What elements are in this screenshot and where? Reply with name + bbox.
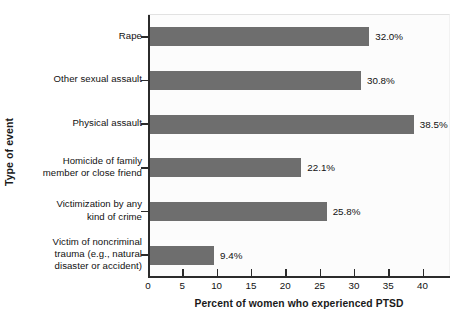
category-label: Victimization by anykind of crime [18,198,142,222]
bar [150,27,370,46]
y-axis-line [148,15,150,277]
x-axis-tick [285,269,286,276]
y-axis-title: Type of event [0,104,18,200]
category-label: Rape [18,30,142,42]
plot-area: 32.0%30.8%38.5%22.1%25.8%9.4% [148,14,450,276]
bar [150,246,215,265]
bar-value-label: 38.5% [420,115,448,134]
y-axis-tick [141,80,148,81]
bar-value-label: 32.0% [375,27,403,46]
category-axis-labels: RapeOther sexual assaultPhysical assault… [18,14,142,276]
bar-value-label: 30.8% [367,71,395,90]
x-axis-line [148,276,450,278]
y-axis-tick [141,211,148,212]
y-axis-tick [141,167,148,168]
bar-value-label: 9.4% [220,246,242,265]
bar [150,71,361,90]
y-axis-title-text: Type of event [3,118,15,186]
x-axis-tick [148,269,149,276]
x-axis-tick [423,269,424,276]
bar-value-label: 22.1% [307,158,335,177]
y-axis-tick [141,36,148,37]
bar-value-label: 25.8% [333,202,361,221]
bar [150,115,414,134]
y-axis-tick [141,123,148,124]
category-label: Other sexual assault [18,73,142,85]
x-axis-tick [354,269,355,276]
x-axis-tick [251,269,252,276]
x-axis-tick [217,269,218,276]
bar [150,202,327,221]
x-axis-title: Percent of women who experienced PTSD [148,298,450,309]
x-axis-tick-label: 40 [403,280,443,291]
bar [150,158,302,177]
bar-chart-figure: Type of event RapeOther sexual assaultPh… [0,0,473,328]
x-axis-tick [182,269,183,276]
category-label: Victim of noncriminaltrauma (e.g., natur… [18,236,142,273]
y-axis-tick [141,254,148,255]
category-label: Physical assault [18,117,142,129]
category-label: Homicide of familymember or close friend [18,155,142,179]
x-axis-tick [320,269,321,276]
x-axis-tick [388,269,389,276]
